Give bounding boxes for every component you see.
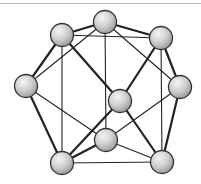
node-upper-left: [51, 24, 74, 47]
node-lower-middle: [95, 129, 118, 152]
node-left: [15, 75, 38, 98]
node-bottom-right: [151, 151, 174, 174]
node-right: [169, 76, 192, 99]
node-center: [109, 90, 132, 113]
node-bottom-left: [51, 152, 74, 175]
cluster-diagram: [0, 0, 201, 184]
edge-upper-left-center: [62, 35, 120, 101]
edge-bottom-left-bottom-right: [62, 162, 162, 163]
node-top: [94, 11, 117, 34]
node-upper-right: [150, 27, 173, 50]
edge-upper-left-upper-right: [62, 35, 161, 38]
edge-top-lower-middle: [105, 22, 106, 140]
